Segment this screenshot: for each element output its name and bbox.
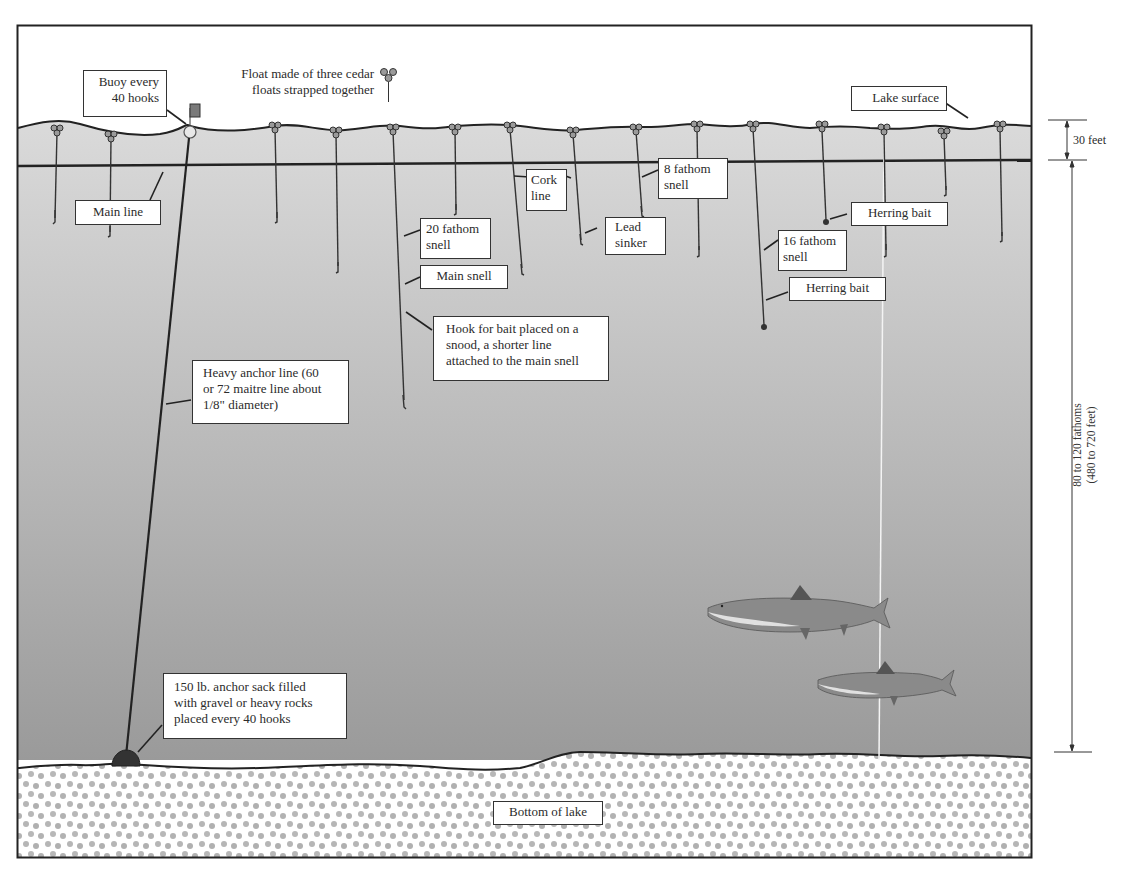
label-bottom-of-lake: Bottom of lake xyxy=(493,801,603,825)
label-herring-bait-lower: Herring bait xyxy=(789,277,886,301)
buoy-ball xyxy=(184,126,196,138)
diagram-canvas xyxy=(0,0,1131,874)
longline-diagram: Float made of three cedar floats strappe… xyxy=(0,0,1131,874)
label-cork-line: Cork line xyxy=(526,169,567,211)
label-8-fathom-snell: 8 fathom snell xyxy=(658,158,728,199)
label-anchor-line: Heavy anchor line (60 or 72 maitre line … xyxy=(192,360,349,424)
label-hook-snood: Hook for bait placed on a snood, a short… xyxy=(433,316,609,381)
dimension-total-depth: 80 to 120 fathoms (480 to 720 feet) xyxy=(1070,365,1100,525)
herring-bait-1-dot xyxy=(823,219,829,225)
label-lake-surface: Lake surface xyxy=(851,86,947,111)
label-herring-bait-upper: Herring bait xyxy=(851,202,948,226)
herring-bait-2-dot xyxy=(761,324,767,330)
label-buoy: Buoy every 40 hooks xyxy=(83,70,167,117)
label-main-snell: Main snell xyxy=(420,265,508,289)
label-lead-sinker: Lead sinker xyxy=(605,217,666,255)
label-20-fathom-snell: 20 fathom snell xyxy=(420,218,491,259)
label-anchor-sack: 150 lb. anchor sack filled with gravel o… xyxy=(163,673,347,739)
label-16-fathom-snell: 16 fathom snell xyxy=(778,230,847,271)
buoy-flag xyxy=(190,104,200,117)
label-main-line: Main line xyxy=(75,200,161,225)
dimension-30-feet: 30 feet xyxy=(1073,132,1106,148)
triple-cedar-float-icon xyxy=(381,69,397,103)
float-legend-text: Float made of three cedar floats strappe… xyxy=(214,66,374,98)
